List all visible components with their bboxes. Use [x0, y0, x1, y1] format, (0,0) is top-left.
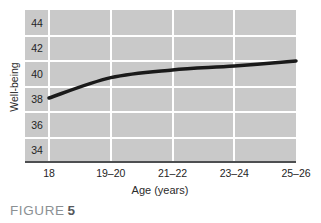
- figure-caption: FIGURE5: [10, 203, 75, 218]
- plot-area: 444240383634: [25, 10, 296, 163]
- x-tick-label: 19–20: [96, 167, 125, 179]
- x-tick-label: 25–26: [281, 167, 310, 179]
- x-tick-label: 18: [43, 167, 55, 179]
- figure-5-chart: Well-being 444240383634 1819–2021–2223–2…: [0, 0, 321, 223]
- y-axis-title: Well-being: [8, 62, 20, 111]
- figure-number: 5: [68, 203, 76, 218]
- wellbeing-trend-line: [25, 10, 296, 163]
- x-tick-label: 21–22: [158, 167, 187, 179]
- figure-label: FIGURE: [10, 203, 65, 218]
- x-axis-title: Age (years): [132, 184, 189, 196]
- x-tick-label: 23–24: [220, 167, 249, 179]
